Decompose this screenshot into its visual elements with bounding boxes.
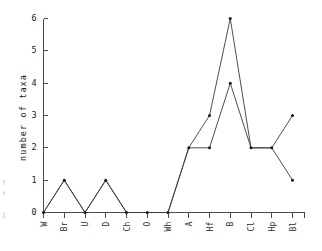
data-point-marker: [84, 211, 87, 214]
data-point-marker: [104, 179, 107, 182]
data-point-marker: [125, 211, 128, 214]
y-tick-label: 2: [31, 142, 36, 152]
y-tick-label: 3: [31, 110, 36, 120]
x-tick-label: Bl: [289, 222, 298, 232]
data-series-group: [42, 17, 294, 214]
x-tick-label: Hf: [206, 222, 215, 232]
data-point-marker: [229, 17, 232, 20]
data-point-marker: [63, 179, 66, 182]
y-axis-title-text: number of taxa: [18, 74, 28, 161]
data-point-marker: [291, 114, 294, 117]
y-tick-label: 1: [31, 175, 36, 185]
data-point-marker: [229, 82, 232, 85]
x-tick-label: Cl: [247, 222, 256, 232]
series-line-series-2: [44, 83, 293, 212]
data-point-marker: [208, 114, 211, 117]
x-tick-label: O: [143, 222, 152, 227]
y-tick-label: 0: [31, 207, 36, 217]
data-point-marker: [270, 146, 273, 149]
x-tick-label: A: [185, 222, 194, 227]
series-line-series-1: [44, 19, 293, 213]
data-point-marker: [146, 211, 149, 214]
x-tick-label: D: [102, 222, 111, 227]
data-point-marker: [187, 146, 190, 149]
y-tick-label: 4: [31, 78, 36, 88]
x-tick-label: Ch: [123, 222, 132, 232]
data-point-marker: [291, 179, 294, 182]
x-tick-label: Br: [60, 222, 69, 232]
data-point-marker: [208, 146, 211, 149]
data-point-marker: [250, 146, 253, 149]
chart-figure: ff 1 0123456 number of taxa WBrUDChOWhAH…: [0, 0, 322, 251]
y-axis: 0123456: [31, 13, 47, 217]
y-axis-title: number of taxa: [18, 74, 28, 161]
x-axis: [44, 213, 305, 218]
data-point-marker: [42, 211, 45, 214]
x-tick-label: U: [81, 222, 90, 227]
x-tick-labels: WBrUDChOWhAHfBClHpBl: [40, 222, 298, 232]
data-point-marker: [167, 211, 170, 214]
y-tick-label: 6: [31, 13, 36, 23]
x-tick-label: B: [226, 222, 235, 227]
x-tick-label: W: [40, 222, 49, 227]
x-tick-label: Wh: [164, 222, 173, 232]
y-tick-label: 5: [31, 45, 36, 55]
x-tick-label: Hp: [268, 222, 277, 232]
number-of-taxa-line-chart: 0123456 number of taxa WBrUDChOWhAHfBClH…: [0, 0, 322, 251]
